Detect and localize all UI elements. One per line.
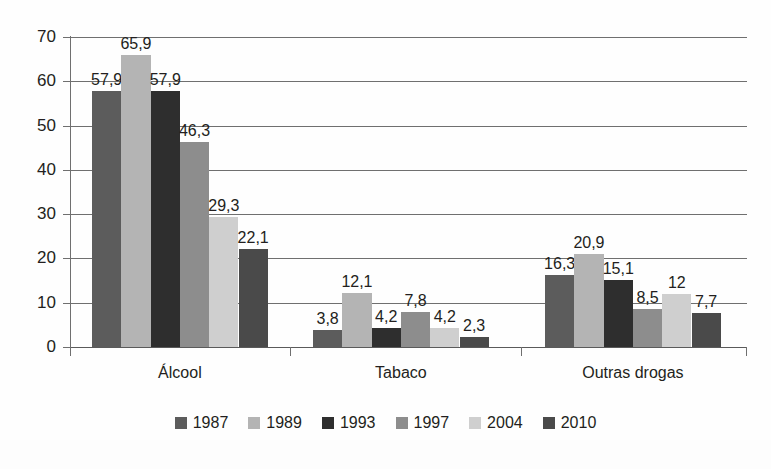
chart-legend: 198719891993199720042010 xyxy=(0,415,771,431)
y-axis-tick-label: 20 xyxy=(0,249,56,266)
legend-item[interactable]: 2004 xyxy=(469,415,523,431)
legend-item[interactable]: 1997 xyxy=(396,415,450,431)
bar xyxy=(92,91,121,347)
bar-value-label: 20,9 xyxy=(567,235,610,251)
bar-value-label: 15,1 xyxy=(597,261,640,277)
x-axis-tick xyxy=(70,347,71,356)
bar xyxy=(692,313,721,347)
bar xyxy=(313,330,342,347)
legend-item[interactable]: 2010 xyxy=(543,415,597,431)
legend-swatch-icon xyxy=(175,417,187,429)
gridline xyxy=(70,37,747,38)
x-axis-category-label: Tabaco xyxy=(283,364,519,382)
bar-value-label: 29,3 xyxy=(202,198,245,214)
bar-value-label: 7,8 xyxy=(394,293,437,309)
legend-item[interactable]: 1989 xyxy=(248,415,302,431)
bar xyxy=(239,249,268,347)
legend-swatch-icon xyxy=(469,417,481,429)
bar xyxy=(180,142,209,347)
legend-swatch-icon xyxy=(396,417,408,429)
axis-baseline xyxy=(70,347,747,348)
legend-label: 1993 xyxy=(340,415,376,431)
x-axis-tick xyxy=(746,347,747,356)
y-axis-tick-label: 30 xyxy=(0,205,56,222)
legend-label: 1997 xyxy=(414,415,450,431)
bar-value-label: 7,7 xyxy=(685,294,728,310)
y-axis-tick-label: 60 xyxy=(0,72,56,89)
legend-item[interactable]: 1993 xyxy=(322,415,376,431)
legend-swatch-icon xyxy=(322,417,334,429)
x-axis-tick xyxy=(290,347,291,356)
legend-swatch-icon xyxy=(248,417,260,429)
y-axis-tick-label: 10 xyxy=(0,294,56,311)
legend-label: 2004 xyxy=(487,415,523,431)
legend-swatch-icon xyxy=(543,417,555,429)
legend-item[interactable]: 1987 xyxy=(175,415,229,431)
x-axis-tick xyxy=(521,347,522,356)
bar-chart: 706050403020100 57,965,957,946,329,322,1… xyxy=(0,0,771,469)
y-axis-tick-label: 0 xyxy=(0,338,56,355)
bar-value-label: 2,3 xyxy=(453,318,496,334)
y-axis-tick-label: 50 xyxy=(0,117,56,134)
legend-label: 1989 xyxy=(266,415,302,431)
y-axis-tick-label: 70 xyxy=(0,28,56,45)
x-axis-category-label: Outras drogas xyxy=(515,364,751,382)
bar xyxy=(372,328,401,347)
plot-area: 57,965,957,946,329,322,13,812,14,27,84,2… xyxy=(70,37,747,347)
y-axis-tick-label: 40 xyxy=(0,161,56,178)
bar-value-label: 57,9 xyxy=(144,72,187,88)
x-axis-category-label: Álcool xyxy=(62,364,298,382)
bar-value-label: 22,1 xyxy=(232,230,275,246)
bar xyxy=(633,309,662,347)
bar xyxy=(121,55,150,347)
bar-value-label: 65,9 xyxy=(114,36,157,52)
legend-label: 2010 xyxy=(561,415,597,431)
bar-value-label: 12,1 xyxy=(335,274,378,290)
bar-value-label: 46,3 xyxy=(173,123,216,139)
scan-margin xyxy=(0,440,771,469)
bar xyxy=(460,337,489,347)
bar-value-label: 12 xyxy=(655,275,698,291)
legend-label: 1987 xyxy=(193,415,229,431)
bar xyxy=(545,275,574,347)
